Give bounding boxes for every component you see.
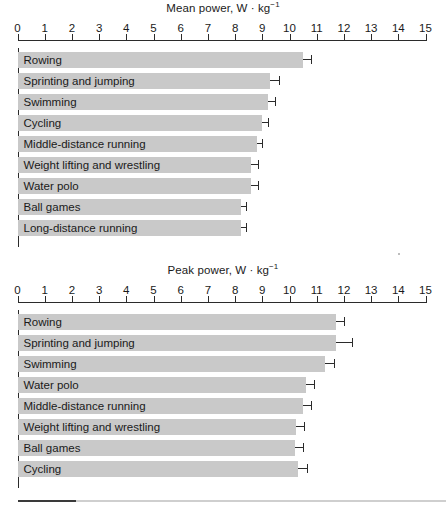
bar-category-label: Water polo [20,178,79,194]
x-tick-label: 8 [232,284,238,296]
x-tick-mark [317,34,318,40]
error-bar-cap [303,443,304,452]
bar [18,314,336,330]
x-tick-label: 3 [96,22,102,34]
error-bar-cap [268,118,269,127]
x-tick-label: 15 [419,22,432,34]
bar-row: Water polo [0,178,446,194]
error-bar-cap [307,464,308,473]
bar-category-label: Weight lifting and wrestling [20,419,161,435]
bar-category-label: Weight lifting and wrestling [20,157,161,173]
panel-peak-axis-title: Peak power, W · kg−1 [0,264,446,276]
bar-category-label: Sprinting and jumping [20,335,135,351]
x-tick-mark [371,296,372,302]
x-tick-mark [154,34,155,40]
x-tick-label: 11 [311,22,323,34]
panel-mean-tick-labels: 0123456789101112131415 [0,22,446,37]
error-bar-cap [311,401,312,410]
bar-row: Cycling [0,115,446,131]
x-tick-label: 13 [365,284,378,296]
panel-mean-axis-title: Mean power, W · kg−1 [0,2,446,14]
x-tick-mark [126,34,127,40]
panel-mean-axis-title-exponent: −1 [270,0,279,9]
panel-mean-power: Mean power, W · kg−1 0123456789101112131… [0,0,446,258]
x-tick-mark [72,34,73,40]
bar-category-label: Rowing [20,314,62,330]
error-bar-cap [279,76,280,85]
panel-mean-x-axis: 0123456789101112131415 [0,22,446,48]
x-tick-label: 4 [123,22,129,34]
error-bar-cap [258,160,259,169]
x-tick-label: 8 [232,22,238,34]
x-tick-label: 7 [205,22,211,34]
error-bar-cap [314,380,315,389]
x-tick-mark [290,296,291,302]
bar-category-label: Cycling [20,461,62,477]
x-tick-label: 0 [14,22,20,34]
bar-row: Ball games [0,440,446,456]
footer-rule-dark [18,500,76,502]
error-bar-cap [311,55,312,64]
x-tick-label: 0 [14,284,20,296]
x-tick-label: 15 [419,284,432,296]
x-tick-label: 10 [283,22,296,34]
x-tick-mark [181,34,182,40]
x-tick-mark [235,34,236,40]
x-tick-label: 5 [150,22,156,34]
x-tick-mark [262,34,263,40]
x-tick-label: 13 [365,22,378,34]
page-speck-right [398,253,400,255]
x-tick-label: 14 [392,284,405,296]
panel-mean-axis-line [18,40,427,41]
error-bar-cap [334,359,335,368]
panel-mean-axis-title-main: Mean power, W · kg [166,2,270,14]
panel-peak-axis-line [18,302,427,303]
error-bar-line [251,185,258,186]
bar-category-label: Middle-distance running [20,398,146,414]
x-tick-mark [18,34,19,40]
x-tick-mark [18,296,19,302]
x-tick-mark [426,296,427,302]
error-bar-cap [258,181,259,190]
x-tick-mark [235,296,236,302]
bar-row: Weight lifting and wrestling [0,419,446,435]
x-tick-mark [99,296,100,302]
x-tick-mark [262,296,263,302]
bar-category-label: Water polo [20,377,79,393]
x-tick-label: 12 [337,284,350,296]
x-tick-label: 12 [337,22,350,34]
bar-row: Sprinting and jumping [0,335,446,351]
panel-peak-axis-title-main: Peak power, W · kg [168,264,270,276]
error-bar-cap [304,422,305,431]
x-tick-mark [181,296,182,302]
x-tick-label: 5 [150,284,156,296]
x-tick-label: 6 [177,22,183,34]
bar-category-label: Rowing [20,52,62,68]
x-tick-mark [208,296,209,302]
bar-row: Middle-distance running [0,398,446,414]
x-tick-mark [45,34,46,40]
panel-peak-x-axis: 0123456789101112131415 [0,284,446,310]
bar-row: Long-distance running [0,220,446,236]
error-bar-cap [352,338,353,347]
error-bar-line [325,363,335,364]
bar-category-label: Swimming [20,356,77,372]
error-bar-cap [344,317,345,326]
x-tick-label: 6 [177,284,183,296]
error-bar-line [295,447,303,448]
bar-row: Water polo [0,377,446,393]
error-bar-line [303,59,311,60]
bar-row: Swimming [0,94,446,110]
bar-category-label: Long-distance running [20,220,138,236]
bar-category-label: Ball games [20,440,81,456]
x-tick-label: 4 [123,284,129,296]
x-tick-label: 9 [259,284,265,296]
bar-category-label: Middle-distance running [20,136,146,152]
error-bar-line [306,384,314,385]
bar-category-label: Ball games [20,199,81,215]
error-bar-cap [275,97,276,106]
error-bar-line [251,164,258,165]
x-tick-label: 2 [69,284,75,296]
x-tick-mark [398,296,399,302]
bar-row: Weight lifting and wrestling [0,157,446,173]
